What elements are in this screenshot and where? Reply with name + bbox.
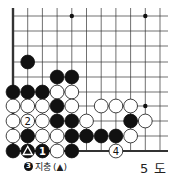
white-stone: [6, 129, 20, 143]
white-stone: [6, 114, 20, 128]
white-stone: [36, 99, 50, 113]
white-stone: 2: [21, 114, 35, 128]
black-stone: [65, 114, 79, 128]
white-stone: [109, 99, 123, 113]
white-stone: [80, 114, 94, 128]
svg-text:2: 2: [25, 116, 31, 127]
caption-text: 지충: [35, 160, 51, 173]
board-grid: [13, 8, 168, 151]
black-stone: [65, 129, 79, 143]
svg-text:4: 4: [113, 146, 119, 157]
black-stone: [94, 129, 108, 143]
black-stone: [50, 99, 64, 113]
white-stone: [36, 114, 50, 128]
diagram-title: 5 도: [140, 158, 167, 177]
black-stone: [50, 70, 64, 84]
move-caption: 3 지충 (▲): [24, 160, 67, 173]
star-point: [143, 104, 147, 108]
black-stone: [36, 85, 50, 99]
white-stone: [124, 99, 138, 113]
white-stone: [21, 99, 35, 113]
star-point: [70, 14, 74, 18]
caption-reference: (▲): [53, 162, 67, 172]
white-stone: 4: [109, 144, 123, 158]
go-board: 214: [0, 0, 170, 184]
white-stone: [50, 129, 64, 143]
black-stone: [6, 85, 20, 99]
black-stone: [6, 144, 20, 158]
star-point: [143, 14, 147, 18]
black-stone: [21, 85, 35, 99]
white-stone: [94, 99, 108, 113]
black-stone: [21, 55, 35, 69]
white-stone: [65, 99, 79, 113]
black-stone: [21, 129, 35, 143]
black-stone: [109, 129, 123, 143]
white-stone: [124, 129, 138, 143]
black-stone: [21, 144, 35, 158]
black-stone: [65, 144, 79, 158]
black-stone: [80, 129, 94, 143]
white-stone: [36, 129, 50, 143]
black-stone: [124, 114, 138, 128]
svg-text:1: 1: [39, 146, 46, 157]
black-stone: [65, 70, 79, 84]
white-stone: [6, 99, 20, 113]
black-stone: 1: [36, 144, 50, 158]
white-stone: [50, 144, 64, 158]
white-stone: [138, 114, 152, 128]
black-stone-number-icon: 3: [24, 162, 33, 171]
white-stone: [50, 85, 64, 99]
white-stone: [65, 85, 79, 99]
black-stone: [50, 114, 64, 128]
star-points: [70, 14, 148, 108]
